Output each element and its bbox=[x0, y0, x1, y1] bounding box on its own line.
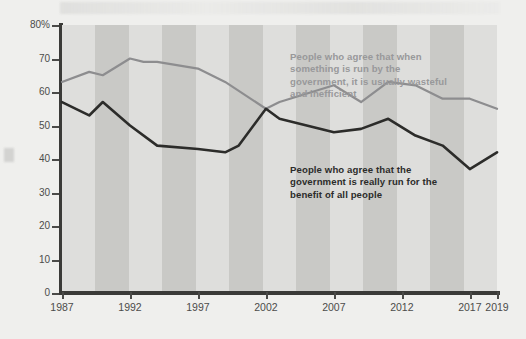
x-axis-tick-label: 1987 bbox=[50, 301, 73, 313]
x-axis-line bbox=[59, 291, 500, 295]
y-axis-tick-label: 30 bbox=[18, 188, 50, 198]
x-axis-tick-label: 1997 bbox=[186, 301, 209, 313]
x-axis-tick bbox=[266, 292, 268, 299]
y-axis-tick-label: 40 bbox=[18, 154, 50, 164]
x-axis-tick bbox=[198, 292, 200, 299]
y-axis-tick-label: 0 bbox=[18, 288, 50, 298]
y-axis-tick bbox=[52, 92, 59, 94]
paper-bleed-artifact bbox=[60, 2, 500, 14]
x-axis-tick bbox=[497, 292, 499, 299]
y-axis-tick-label: 10 bbox=[18, 255, 50, 265]
annotation-gray-label: People who agree that when something is … bbox=[290, 51, 450, 101]
x-axis-tick-label: 2002 bbox=[254, 301, 277, 313]
x-axis-tick-label: 1992 bbox=[118, 301, 141, 313]
annotation-black-label: People who agree that the government is … bbox=[290, 164, 450, 201]
y-axis-tick bbox=[52, 59, 59, 61]
x-axis-tick bbox=[334, 292, 336, 299]
y-axis-tick-label: 80% bbox=[18, 20, 50, 30]
y-axis-tick bbox=[52, 293, 59, 295]
paper-smudge-artifact bbox=[4, 148, 14, 162]
x-axis-tick bbox=[402, 292, 404, 299]
x-axis-tick bbox=[130, 292, 132, 299]
x-axis-tick bbox=[62, 292, 64, 299]
x-axis-tick-label: 2017 bbox=[458, 301, 481, 313]
y-axis-tick bbox=[52, 25, 59, 27]
x-axis-tick bbox=[470, 292, 472, 299]
y-axis-tick-label: 20 bbox=[18, 221, 50, 231]
plot-area: People who agree that when something is … bbox=[62, 25, 497, 293]
y-axis-tick bbox=[52, 126, 59, 128]
y-axis-tick-label: 70 bbox=[18, 54, 50, 64]
series-line-benefit bbox=[62, 102, 497, 169]
chart-figure: 01020304050607080% People who agree that… bbox=[0, 0, 526, 339]
y-axis-tick bbox=[52, 159, 59, 161]
y-axis-tick bbox=[52, 193, 59, 195]
x-axis-tick-label: 2012 bbox=[390, 301, 413, 313]
x-axis-tick-label: 2019 bbox=[485, 301, 508, 313]
x-axis-tick-label: 2007 bbox=[322, 301, 345, 313]
y-axis-tick bbox=[52, 260, 59, 262]
y-axis-tick-label: 50 bbox=[18, 121, 50, 131]
y-axis-tick bbox=[52, 226, 59, 228]
y-axis-tick-label: 60 bbox=[18, 87, 50, 97]
